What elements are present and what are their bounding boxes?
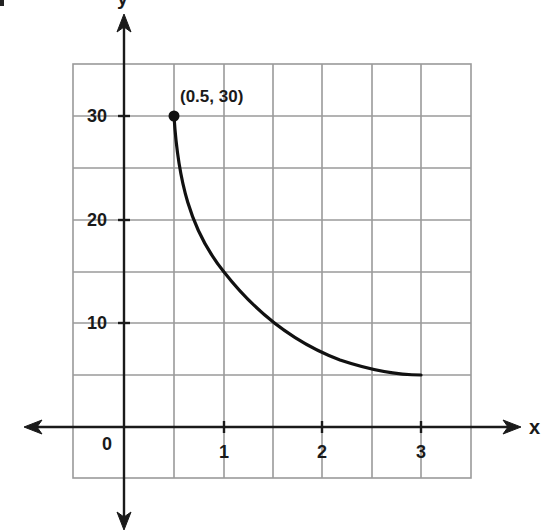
x-tick-label-0: 0 [102,434,112,454]
point-label: (0.5, 30) [180,87,243,106]
y-axis-label: y [117,0,129,9]
y-tick-label-10: 10 [87,313,107,333]
grid [73,64,471,478]
x-tick-label-3: 3 [416,442,426,462]
point-marker [169,111,180,122]
x-axis-label: x [529,416,540,438]
stray-mark [0,0,4,6]
curve-y-15-over-x [174,116,421,375]
x-tick-label-1: 1 [219,442,229,462]
function-graph: (0.5, 30) 30 20 10 0 1 2 3 x y [0,0,547,532]
y-tick-label-30: 30 [87,106,107,126]
x-tick-label-2: 2 [317,442,327,462]
y-tick-label-20: 20 [87,210,107,230]
